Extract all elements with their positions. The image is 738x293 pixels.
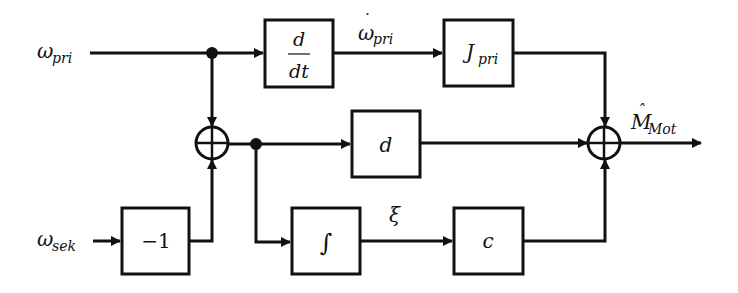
- output-label-m-hat-mot: M ˆ Mot: [630, 101, 677, 137]
- stiffness-to-sum2-wire: [523, 160, 605, 241]
- svg-text:sek: sek: [52, 238, 76, 254]
- xi-label: ξ: [389, 203, 401, 227]
- stiffness-block: c: [454, 208, 523, 274]
- integrator-block: ∫: [292, 208, 360, 274]
- omega-dot-pri-label: ω ˙ pri: [358, 11, 393, 47]
- svg-text:ω: ω: [37, 39, 53, 63]
- svg-text:pri: pri: [52, 50, 72, 66]
- block-diagram: d dt J pri d: [0, 0, 738, 293]
- svg-text:ω: ω: [37, 227, 53, 251]
- integrator-label: ∫: [320, 229, 333, 257]
- svg-text:ˆ: ˆ: [637, 101, 645, 120]
- damping-label: d: [380, 133, 393, 157]
- svg-text:ξ: ξ: [389, 203, 401, 227]
- omega-sek-label: ω sek: [37, 227, 76, 254]
- negate-to-sum1-wire: [189, 160, 212, 241]
- inertia-sub: pri: [478, 51, 498, 67]
- derivative-den: dt: [289, 60, 309, 82]
- inertia-to-sum2-wire: [513, 53, 605, 126]
- damping-block: d: [352, 111, 420, 177]
- summing-junction-2: [588, 127, 620, 159]
- derivative-block: d dt: [265, 20, 333, 87]
- negate-label: −1: [141, 229, 170, 253]
- svg-text:˙: ˙: [362, 11, 370, 30]
- stiffness-label: c: [482, 229, 493, 253]
- svg-text:Mot: Mot: [647, 121, 677, 137]
- summing-junction-1: [196, 127, 228, 159]
- negate-block: −1: [122, 208, 189, 274]
- branch-to-integrator-wire: [256, 144, 290, 242]
- derivative-num: d: [293, 28, 305, 50]
- svg-text:pri: pri: [373, 31, 393, 47]
- inertia-block: J pri: [444, 20, 513, 86]
- omega-pri-label: ω pri: [37, 39, 72, 66]
